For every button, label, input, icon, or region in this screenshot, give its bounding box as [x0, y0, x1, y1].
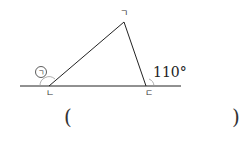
vertex-label-left: ㄴ	[46, 88, 54, 98]
angle-arc-left	[40, 77, 55, 86]
unknown-angle-mark: ㄱ	[38, 69, 44, 77]
vertex-label-top: ㄱ	[120, 8, 128, 18]
angle-arc-right	[149, 79, 154, 86]
given-angle-label: 110°	[153, 64, 187, 80]
side-right	[124, 22, 146, 86]
answer-close-paren: )	[232, 105, 240, 129]
answer-open-paren: (	[64, 105, 72, 129]
triangle-diagram: ㄱ ㄱ ㄴ ㄷ 110°	[0, 0, 251, 143]
side-left	[49, 22, 124, 86]
vertex-label-right: ㄷ	[145, 88, 153, 98]
